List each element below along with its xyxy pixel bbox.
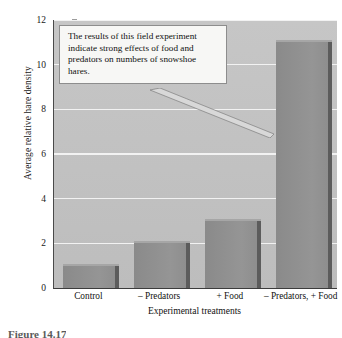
bar-top-highlight-3: [276, 40, 332, 42]
bar-side-shadow-2: [257, 221, 261, 288]
bar-top-highlight-1: [134, 241, 190, 243]
callout-line-2: indicate strong effects of food and: [68, 43, 219, 55]
y-tick-label-10: 10: [24, 60, 46, 70]
x-tick-label-1: – Predators: [138, 291, 180, 301]
x-tick-label-3: – Predators, + Food: [264, 291, 337, 301]
bar-2: [205, 221, 257, 288]
figure-caption: Figure 14.17: [8, 328, 66, 338]
callout-line-3: predators on numbers of snowshoe: [68, 54, 219, 66]
bar-0: [63, 266, 115, 288]
callout-line-1: The results of this field experiment: [68, 31, 219, 43]
gridline-12: [54, 20, 337, 21]
callout-annotation: The results of this field experiment ind…: [59, 25, 227, 84]
y-tick-label-0: 0: [24, 283, 46, 293]
bar-side-shadow-0: [115, 266, 119, 288]
bar-top-highlight-2: [205, 219, 261, 221]
y-tick-label-2: 2: [24, 238, 46, 248]
y-tick-label-12: 12: [24, 15, 46, 25]
y-axis-tick-labels: 024681012: [24, 20, 46, 288]
figure-bar-chart: Average relative hare density 024681012 …: [0, 0, 342, 338]
callout-line-4: hares.: [68, 66, 219, 78]
y-tick-label-4: 4: [24, 194, 46, 204]
bar-side-shadow-1: [186, 243, 190, 288]
bar-3: [276, 42, 328, 288]
x-axis-tick-labels: Control– Predators+ Food– Predators, + F…: [53, 291, 336, 305]
y-tick-label-8: 8: [24, 104, 46, 114]
y-tick-label-6: 6: [24, 149, 46, 159]
x-tick-label-2: + Food: [217, 291, 244, 301]
x-tick-label-0: Control: [74, 291, 102, 301]
bar-top-highlight-0: [63, 264, 119, 266]
x-axis-title: Experimental treatments: [53, 306, 336, 316]
bar-1: [134, 243, 186, 288]
bar-side-shadow-3: [328, 42, 332, 288]
